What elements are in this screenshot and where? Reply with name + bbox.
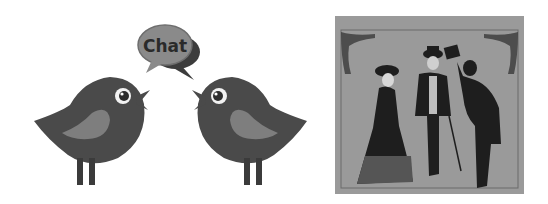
right-bird-icon	[192, 77, 307, 185]
vintage-engraving-illustration	[335, 16, 524, 194]
left-bird-icon	[34, 77, 150, 185]
chat-label: Chat	[143, 36, 187, 56]
birds-chat-illustration: Chat	[0, 0, 320, 204]
